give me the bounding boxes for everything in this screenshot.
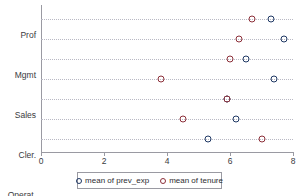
legend-entry-prev-exp[interactable]: mean of prev_exp xyxy=(76,177,149,185)
data-point xyxy=(242,56,249,63)
x-axis-tick-label: 0 xyxy=(39,157,44,166)
chart-legend: mean of prev_exp mean of tenure xyxy=(77,172,222,189)
gridline-row: Sales xyxy=(41,59,293,60)
legend-label-tenure: mean of tenure xyxy=(169,177,223,185)
data-point xyxy=(179,116,186,123)
data-point xyxy=(204,136,211,143)
legend-marker-prev-exp xyxy=(76,178,82,184)
x-axis-tick-label: 2 xyxy=(102,157,107,166)
data-point xyxy=(223,96,230,103)
data-point xyxy=(271,76,278,83)
plot-area: ProfMgmtSalesCler.Operat.LaborOther xyxy=(41,5,293,152)
data-point xyxy=(267,16,274,23)
data-point xyxy=(280,36,287,43)
data-point xyxy=(157,76,164,83)
category-label-prof: Prof xyxy=(20,31,36,40)
x-axis-tick-label: 4 xyxy=(165,157,170,166)
gridline-row: Labor xyxy=(41,119,293,120)
category-label-mgmt: Mgmt xyxy=(15,71,36,80)
legend-label-prev-exp: mean of prev_exp xyxy=(85,177,149,185)
x-axis-tick-label: 6 xyxy=(228,157,233,166)
gridline-row: Operat. xyxy=(41,99,293,100)
gridline-row: Other xyxy=(41,139,293,140)
dot-chart: ProfMgmtSalesCler.Operat.LaborOther 0246… xyxy=(0,0,298,196)
data-point xyxy=(249,16,256,23)
category-label-sales: Sales xyxy=(15,111,36,120)
data-point xyxy=(227,56,234,63)
legend-marker-tenure xyxy=(160,178,166,184)
gridline-row: Cler. xyxy=(41,79,293,80)
data-point xyxy=(236,36,243,43)
category-label-cler: Cler. xyxy=(19,151,36,160)
data-point xyxy=(233,116,240,123)
gridline-row: Mgmt xyxy=(41,39,293,40)
x-axis-tick-label: 8 xyxy=(291,157,296,166)
data-point xyxy=(258,136,265,143)
legend-entry-tenure[interactable]: mean of tenure xyxy=(160,177,223,185)
category-label-operat: Operat. xyxy=(8,191,36,196)
